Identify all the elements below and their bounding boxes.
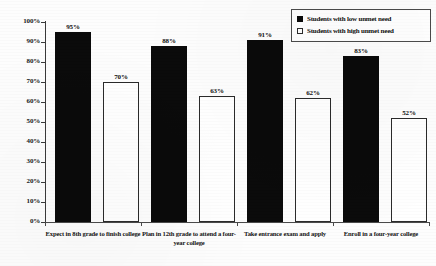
y-axis-tick-label: 100% xyxy=(23,17,40,25)
bar: 91% xyxy=(247,40,283,222)
y-axis-tick-mark xyxy=(41,202,45,203)
y-axis-tick-mark xyxy=(41,62,45,63)
y-axis-tick-label: 30% xyxy=(27,157,40,165)
y-axis-tick-label: 10% xyxy=(27,197,40,205)
x-axis-separator-tick xyxy=(141,222,142,226)
bar-value-label: 52% xyxy=(402,109,415,117)
y-axis-tick-mark xyxy=(41,82,45,83)
legend-label-high-unmet-need: Students with high unmet need xyxy=(307,27,394,35)
legend-label-low-unmet-need: Students with low unmet need xyxy=(307,15,391,23)
bar-chart: 0%10%20%30%40%50%60%70%80%90%100% 95%70%… xyxy=(0,0,436,266)
bar-value-label: 88% xyxy=(162,37,175,45)
bar: 52% xyxy=(391,118,427,222)
bar: 83% xyxy=(343,56,379,222)
chart-legend: Students with low unmet need Students wi… xyxy=(291,9,431,42)
x-axis-category-label: Take entrance exam and apply xyxy=(233,229,337,238)
bar-value-label: 95% xyxy=(66,23,79,31)
bar: 70% xyxy=(103,82,139,222)
x-axis-separator-tick xyxy=(333,222,334,226)
y-axis-tick-label: 60% xyxy=(27,97,40,105)
y-axis-tick-label: 50% xyxy=(27,117,40,125)
y-axis-tick-label: 20% xyxy=(27,177,40,185)
legend-item-high-unmet-need: Students with high unmet need xyxy=(297,25,425,37)
y-axis-tick-label: 0% xyxy=(30,217,40,225)
y-axis-tick-mark xyxy=(41,182,45,183)
bar: 95% xyxy=(55,32,91,222)
y-axis-tick-mark xyxy=(41,22,45,23)
bar-value-label: 70% xyxy=(114,73,127,81)
bar-value-label: 83% xyxy=(354,47,367,55)
bar: 63% xyxy=(199,96,235,222)
y-axis-tick-mark xyxy=(41,122,45,123)
bar-value-label: 91% xyxy=(258,31,271,39)
y-axis-tick-label: 80% xyxy=(27,57,40,65)
legend-item-low-unmet-need: Students with low unmet need xyxy=(297,13,425,25)
bar-value-label: 62% xyxy=(306,89,319,97)
y-axis-tick-mark xyxy=(41,102,45,103)
filled-square-icon xyxy=(297,16,303,22)
x-axis-separator-tick xyxy=(429,222,430,226)
y-axis-tick-mark xyxy=(41,42,45,43)
bar-value-label: 63% xyxy=(210,87,223,95)
x-axis-separator-tick xyxy=(45,222,46,226)
y-axis-tick-mark xyxy=(41,162,45,163)
x-axis-separator-tick xyxy=(237,222,238,226)
bar: 88% xyxy=(151,46,187,222)
bar: 62% xyxy=(295,98,331,222)
x-axis-category-label: Enroll in a four-year college xyxy=(329,229,433,238)
empty-square-icon xyxy=(297,28,303,34)
y-axis-tick-mark xyxy=(41,142,45,143)
y-axis-tick-label: 90% xyxy=(27,37,40,45)
y-axis-tick-label: 40% xyxy=(27,137,40,145)
y-axis-tick-label: 70% xyxy=(27,77,40,85)
x-axis-category-label: Plan in 12th grade to attend a four-year… xyxy=(137,229,241,247)
plot-area: 0%10%20%30%40%50%60%70%80%90%100% 95%70%… xyxy=(45,22,429,222)
x-axis-category-label: Expect in 8th grade to finish college xyxy=(41,229,145,238)
